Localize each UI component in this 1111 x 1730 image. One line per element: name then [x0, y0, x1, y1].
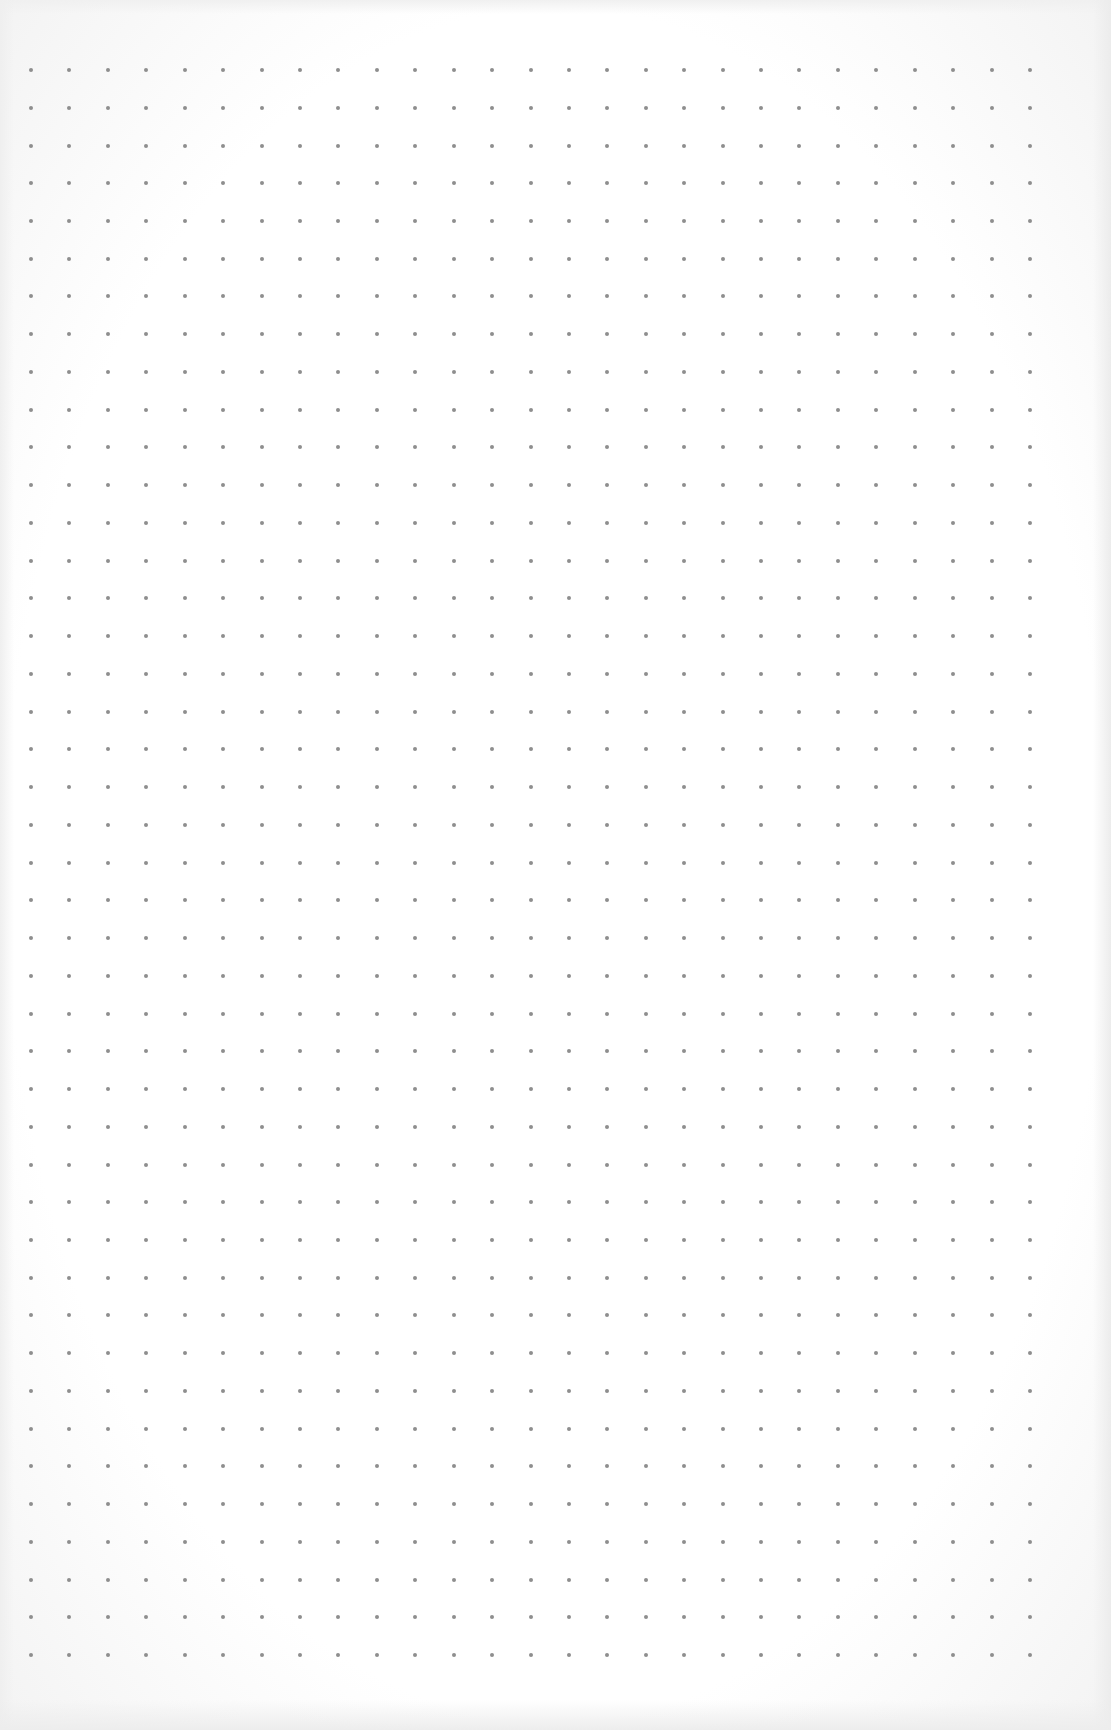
grid-dot [183, 1125, 187, 1129]
grid-dot [29, 370, 33, 374]
grid-dot [144, 596, 148, 600]
grid-dot [797, 257, 801, 261]
grid-dot [1028, 1653, 1032, 1657]
grid-dot [298, 1351, 302, 1355]
grid-dot [29, 1087, 33, 1091]
grid-dot [452, 861, 456, 865]
grid-dot [951, 483, 955, 487]
grid-dot [682, 370, 686, 374]
grid-dot [913, 181, 917, 185]
grid-dot [298, 634, 302, 638]
grid-dot [490, 596, 494, 600]
grid-dot [951, 294, 955, 298]
grid-dot [759, 521, 763, 525]
grid-dot [951, 181, 955, 185]
grid-dot [336, 1313, 340, 1317]
grid-dot [951, 521, 955, 525]
grid-dot [682, 1200, 686, 1204]
grid-dot [605, 1238, 609, 1242]
grid-dot [221, 1389, 225, 1393]
grid-dot [990, 445, 994, 449]
grid-dot [797, 1351, 801, 1355]
grid-dot [836, 936, 840, 940]
grid-dot [529, 408, 533, 412]
grid-dot [106, 974, 110, 978]
grid-dot [336, 559, 340, 563]
grid-dot [106, 370, 110, 374]
grid-dot [144, 1200, 148, 1204]
grid-dot [990, 144, 994, 148]
grid-dot [567, 106, 571, 110]
grid-dot [759, 936, 763, 940]
grid-dot [336, 332, 340, 336]
grid-dot [990, 898, 994, 902]
grid-dot [682, 483, 686, 487]
grid-dot [797, 1464, 801, 1468]
grid-dot [490, 672, 494, 676]
grid-dot [990, 1276, 994, 1280]
grid-dot [452, 1087, 456, 1091]
grid-dot [67, 747, 71, 751]
grid-dot [644, 1238, 648, 1242]
grid-dot [605, 521, 609, 525]
grid-dot [1028, 181, 1032, 185]
grid-dot [490, 974, 494, 978]
grid-dot [759, 219, 763, 223]
grid-dot [413, 559, 417, 563]
grid-dot [144, 559, 148, 563]
grid-dot [529, 1653, 533, 1657]
grid-dot [797, 1276, 801, 1280]
grid-dot [413, 898, 417, 902]
grid-dot [529, 1049, 533, 1053]
grid-dot [1028, 445, 1032, 449]
grid-dot [67, 596, 71, 600]
grid-dot [951, 1012, 955, 1016]
grid-dot [375, 445, 379, 449]
grid-dot [1028, 1313, 1032, 1317]
grid-dot [721, 1200, 725, 1204]
grid-dot [67, 936, 71, 940]
grid-dot [874, 1125, 878, 1129]
grid-dot [183, 1200, 187, 1204]
grid-dot [106, 106, 110, 110]
grid-dot [951, 1087, 955, 1091]
grid-dot [375, 408, 379, 412]
grid-dot [221, 1464, 225, 1468]
grid-dot [375, 596, 379, 600]
grid-dot [144, 1276, 148, 1280]
grid-dot [644, 408, 648, 412]
grid-dot [413, 974, 417, 978]
grid-dot [951, 1276, 955, 1280]
grid-dot [221, 445, 225, 449]
grid-dot [682, 710, 686, 714]
grid-dot [1028, 1012, 1032, 1016]
grid-dot [567, 936, 571, 940]
grid-dot [836, 559, 840, 563]
grid-dot [452, 1313, 456, 1317]
grid-dot [1028, 370, 1032, 374]
grid-dot [529, 747, 533, 751]
grid-dot [567, 1389, 571, 1393]
grid-dot [106, 1313, 110, 1317]
grid-dot [529, 1313, 533, 1317]
grid-dot [605, 332, 609, 336]
grid-dot [913, 1163, 917, 1167]
grid-dot [1028, 68, 1032, 72]
grid-dot [721, 68, 725, 72]
grid-dot [605, 1163, 609, 1167]
grid-dot [298, 747, 302, 751]
grid-dot [951, 823, 955, 827]
grid-dot [298, 408, 302, 412]
grid-dot [29, 521, 33, 525]
grid-dot [413, 936, 417, 940]
grid-dot [797, 445, 801, 449]
grid-dot [375, 1502, 379, 1506]
grid-dot [144, 1049, 148, 1053]
grid-dot [336, 710, 340, 714]
grid-dot [260, 672, 264, 676]
grid-dot [221, 596, 225, 600]
grid-dot [375, 1427, 379, 1431]
grid-dot [644, 257, 648, 261]
grid-dot [644, 1049, 648, 1053]
grid-dot [721, 1615, 725, 1619]
